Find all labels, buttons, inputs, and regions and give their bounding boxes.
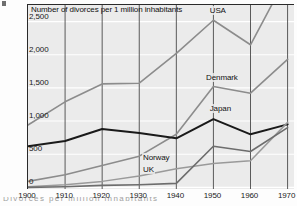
caption-clip: Divorces per million inhabitants xyxy=(0,197,297,206)
chart-svg xyxy=(28,5,294,189)
series-line-denmark xyxy=(28,59,288,181)
series-line-usa xyxy=(28,5,288,125)
series-line-japan xyxy=(28,119,288,146)
plot-area xyxy=(27,4,294,189)
caption-fragment: Divorces per million inhabitants xyxy=(3,197,159,203)
figure-number-marker: 4 xyxy=(2,1,6,6)
figure-divorce-rates: 4 05001,0001,5002,0002,500 1900191019201… xyxy=(0,0,297,206)
